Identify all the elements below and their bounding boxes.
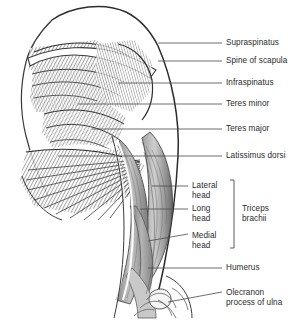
label-latissimus-dorsi: Latissimus dorsi [226, 151, 286, 161]
label-humerus: Humerus [226, 263, 260, 273]
label-long-head: Long head [192, 204, 210, 223]
label-teres-major: Teres major [226, 124, 269, 134]
label-supraspinatus: Supraspinatus [226, 38, 279, 48]
label-infraspinatus: Infraspinatus [226, 78, 274, 88]
label-medial-head: Medial head [192, 231, 216, 250]
anatomy-figure: SupraspinatusSpine of scapulaInfraspinat… [0, 0, 295, 320]
label-triceps-brachii: Triceps brachii [242, 204, 269, 223]
label-spine-of-scapula: Spine of scapula [226, 56, 287, 66]
label-teres-minor: Teres minor [226, 99, 269, 109]
label-olecranon-process: Olecranon process of ulna [226, 288, 282, 307]
olecranon-process [149, 289, 171, 309]
label-lateral-head: Lateral head [192, 181, 217, 200]
